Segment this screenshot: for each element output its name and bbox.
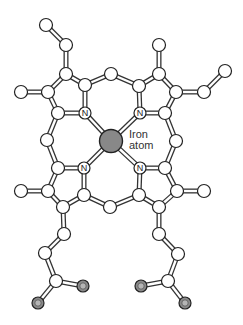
carbon-atom — [172, 248, 185, 261]
carbon-atom — [153, 39, 166, 52]
carbon-atom — [105, 68, 118, 81]
bond-fills — [21, 25, 225, 303]
oxygen-atom — [77, 280, 89, 292]
carbon-atom — [159, 162, 172, 175]
carbon-atom — [52, 107, 65, 120]
carbon-atom — [133, 80, 146, 93]
nitrogen-atom: N — [79, 107, 91, 119]
carbon-atom — [162, 275, 175, 288]
carbon-atom — [52, 162, 65, 175]
nitrogen-label: N — [137, 108, 144, 118]
carbon-atom — [60, 39, 73, 52]
nitrogen-atom: N — [78, 162, 90, 174]
carbon-atom — [40, 19, 53, 32]
carbon-atom — [57, 201, 70, 214]
carbon-atom — [60, 68, 73, 81]
oxygen-atom — [179, 297, 191, 309]
carbon-atom — [39, 247, 52, 260]
atoms: NNNN — [15, 19, 232, 310]
carbon-atom — [159, 107, 172, 120]
carbon-atom — [198, 86, 211, 99]
heme-diagram: NNNN Iron atom — [0, 0, 243, 325]
carbon-atom — [15, 86, 28, 99]
carbon-atom — [153, 201, 166, 214]
carbon-atom — [78, 189, 91, 202]
carbon-atom — [219, 65, 232, 78]
nitrogen-label: N — [82, 108, 89, 118]
oxygen-atom — [32, 297, 44, 309]
nitrogen-label: N — [81, 163, 88, 173]
carbon-atom — [153, 228, 166, 241]
carbon-atom — [153, 68, 166, 81]
carbon-atom — [42, 185, 55, 198]
carbon-atom — [133, 189, 146, 202]
carbon-atom — [42, 86, 55, 99]
nitrogen-label: N — [137, 163, 144, 173]
nitrogen-atom: N — [134, 107, 146, 119]
iron-atom — [100, 130, 123, 153]
carbon-atom — [104, 201, 117, 214]
bond-outlines — [21, 25, 225, 303]
carbon-atom — [50, 275, 63, 288]
oxygen-atom — [135, 280, 147, 292]
carbon-atom — [170, 86, 183, 99]
molecule-structure: NNNN — [0, 0, 243, 325]
carbon-atom — [198, 185, 211, 198]
carbon-atom — [58, 228, 71, 241]
nitrogen-atom: N — [134, 162, 146, 174]
carbon-atom — [171, 185, 184, 198]
carbon-atom — [15, 185, 28, 198]
carbon-atom — [41, 134, 54, 147]
carbon-atom — [170, 135, 183, 148]
carbon-atom — [79, 79, 92, 92]
iron-atom-label-line2: atom — [129, 140, 153, 151]
